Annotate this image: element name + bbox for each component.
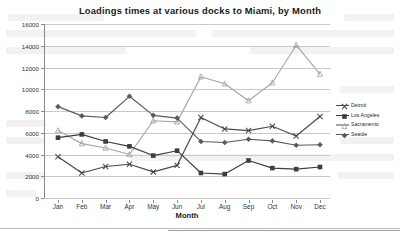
series-plot: [44, 24, 330, 198]
diamond-marker: [246, 136, 252, 142]
diamond-marker: [55, 104, 61, 110]
triangle-marker: [55, 128, 60, 133]
x-marker: [341, 103, 348, 110]
legend-swatch: [336, 111, 349, 120]
x-tick-mark: [249, 200, 250, 203]
square-marker: [127, 144, 132, 149]
chart-legend: DetroitLos AngelesSacramentoSeattle: [336, 101, 398, 139]
gridline: [44, 198, 330, 199]
x-tick-label: Aug: [219, 203, 230, 210]
diamond-marker: [270, 138, 276, 144]
y-tick-label: 8000: [25, 108, 39, 115]
legend-swatch: [336, 120, 349, 129]
y-tick-label: 2000: [25, 173, 39, 180]
square-marker: [151, 153, 156, 158]
y-tick-label: 12000: [22, 64, 39, 71]
x-marker: [198, 115, 203, 120]
triangle-marker: [342, 123, 347, 128]
legend-item-seattle[interactable]: Seattle: [336, 130, 398, 140]
x-tick-mark: [296, 200, 297, 203]
diamond-marker: [79, 113, 85, 119]
y-tick-label: 4000: [25, 151, 39, 158]
x-tick-label: Mar: [100, 203, 111, 210]
x-tick-mark: [129, 200, 130, 203]
y-tick-label: 0: [36, 195, 39, 202]
legend-label: Seattle: [351, 132, 367, 137]
x-tick-mark: [82, 200, 83, 203]
square-marker: [318, 165, 323, 170]
y-tick-label: 14000: [22, 42, 39, 49]
legend-swatch: [336, 130, 349, 139]
page-divider-secondary: [168, 230, 400, 231]
y-axis-tick-labels: 0200040006000800010000120001400016000: [0, 24, 44, 198]
y-tick-label: 6000: [25, 129, 39, 136]
legend-label: Sacramento: [351, 122, 379, 127]
plot-area: [44, 24, 330, 198]
x-marker: [294, 133, 299, 138]
x-tick-label: Sep: [243, 203, 254, 210]
x-marker: [317, 114, 322, 119]
triangle-marker: [341, 123, 348, 130]
x-tick-mark: [58, 200, 59, 203]
x-tick-mark: [225, 200, 226, 203]
square-marker: [342, 114, 347, 119]
diamond-marker: [222, 140, 228, 146]
x-tick-label: Jun: [172, 203, 182, 210]
diamond-marker: [293, 142, 299, 148]
legend-item-sacramento[interactable]: Sacramento: [336, 120, 398, 130]
square-marker: [199, 171, 204, 176]
x-tick-label: Dec: [314, 203, 325, 210]
legend-swatch: [336, 101, 349, 110]
legend-item-detroit[interactable]: Detroit: [336, 101, 398, 111]
series-sacramento: [55, 42, 322, 156]
x-tick-mark: [201, 200, 202, 203]
square-marker: [270, 166, 275, 171]
y-tick-mark: [41, 198, 44, 199]
diamond-marker: [317, 142, 323, 148]
x-tick-mark: [320, 200, 321, 203]
x-tick-label: Jan: [53, 203, 63, 210]
legend-label: Los Angeles: [351, 113, 379, 118]
diamond-marker: [342, 133, 348, 139]
diamond-marker: [341, 132, 348, 139]
x-tick-mark: [106, 200, 107, 203]
x-tick-label: Feb: [76, 203, 87, 210]
x-tick-mark: [272, 200, 273, 203]
square-marker: [294, 167, 299, 172]
x-axis-title: Month: [44, 211, 330, 220]
legend-label: Detroit: [351, 103, 366, 108]
x-marker: [55, 154, 60, 159]
x-tick-label: Nov: [290, 203, 301, 210]
square-marker: [246, 158, 251, 163]
square-marker: [341, 113, 348, 120]
legend-item-los-angeles[interactable]: Los Angeles: [336, 111, 398, 121]
series-detroit: [55, 114, 322, 176]
square-marker: [222, 172, 227, 177]
x-marker: [342, 104, 347, 109]
chart-figure: Loadings times at various docks to Miami…: [0, 0, 400, 235]
square-marker: [175, 148, 180, 153]
square-marker: [56, 135, 61, 140]
x-tick-label: Oct: [267, 203, 277, 210]
x-tick-label: Apr: [124, 203, 134, 210]
y-tick-label: 10000: [22, 86, 39, 93]
x-tick-label: Jul: [197, 203, 205, 210]
x-tick-label: May: [147, 203, 159, 210]
square-marker: [103, 139, 108, 144]
square-marker: [80, 132, 85, 137]
y-tick-label: 16000: [22, 21, 39, 28]
series-seattle: [55, 94, 323, 149]
chart-title: Loadings times at various docks to Miami…: [0, 5, 400, 16]
x-tick-mark: [153, 200, 154, 203]
x-tick-mark: [177, 200, 178, 203]
